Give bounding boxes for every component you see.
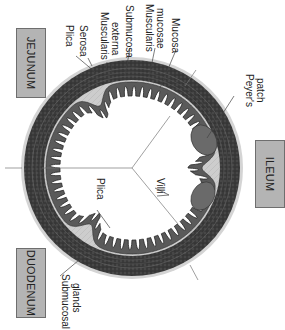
region-box-ileum: ILEUM xyxy=(255,140,285,208)
label-muscularis-externa-2: externa xyxy=(110,22,121,55)
label-submucosal-glands-1: Submucosal xyxy=(60,274,71,329)
label-plica-top: Plica xyxy=(64,25,75,47)
label-serosa: Serosa xyxy=(78,25,89,57)
region-label-jejunum: JEJUNUM xyxy=(25,37,37,90)
region-box-jejunum: JEJUNUM xyxy=(16,28,46,98)
region-label-ileum: ILEUM xyxy=(264,157,276,192)
label-plica-inner: Plica xyxy=(95,178,106,200)
label-muscularis-mucosae-1: Muscularis xyxy=(144,4,155,52)
label-submucosal-glands-2: glands xyxy=(71,283,82,312)
label-mucosa: Mucosa xyxy=(170,18,181,53)
label-submucosa: Submucosa xyxy=(124,5,135,58)
region-box-duodenum: DUODENUM xyxy=(16,248,46,318)
label-peyers-patch-2: patch xyxy=(255,78,266,102)
label-peyers-patch-1: Peyer's xyxy=(244,74,255,107)
label-villi: Villi xyxy=(155,178,166,193)
region-label-duodenum: DUODENUM xyxy=(25,250,37,316)
label-muscularis-mucosae-2: mucosae xyxy=(155,8,166,49)
diagram-canvas: JEJUNUM ILEUM DUODENUM Plica Serosa Musc… xyxy=(0,0,285,330)
label-muscularis-externa-1: Muscularis xyxy=(99,12,110,60)
region-divider-tick xyxy=(190,265,198,280)
